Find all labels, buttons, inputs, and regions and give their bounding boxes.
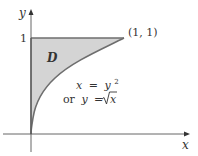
region-label: D (46, 51, 58, 65)
eq2-equals: = (94, 93, 103, 106)
equation-line-1: x = y 2 (76, 78, 119, 92)
point-label: (1, 1) (128, 26, 158, 39)
eq1-rhs-exp: 2 (114, 78, 118, 86)
eq2-prefix: or (63, 93, 76, 106)
equation-line-2: or y = (63, 93, 103, 106)
region-diagram: y x 1 D (1, 1) x = y 2 or y = x (0, 0, 198, 156)
x-axis-label: x (182, 138, 189, 152)
eq1-rhs-base: y (103, 79, 111, 92)
eq2-rhs: x (110, 93, 117, 106)
y-axis-label: y (18, 6, 26, 20)
eq2-lhs: y (80, 93, 88, 106)
x-axis-arrow-icon (184, 132, 190, 137)
eq1-lhs: x (76, 79, 83, 92)
eq1-equals: = (89, 79, 98, 92)
y-axis-arrow-icon (29, 9, 34, 15)
y-tick-label-1: 1 (20, 32, 27, 45)
